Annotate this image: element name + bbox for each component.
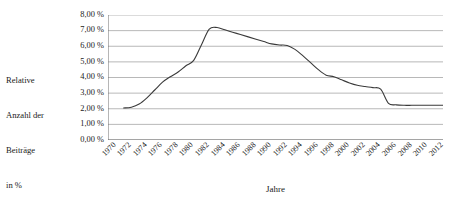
x-tick-label-2006: 2006 [381, 141, 398, 158]
x-tick-label-1976: 1976 [147, 141, 164, 158]
y-tick-label: 1,00 % [62, 120, 104, 128]
gridlines [108, 15, 443, 140]
x-tick-label-2012: 2012 [427, 141, 444, 158]
x-tick-label-1986: 1986 [225, 141, 242, 158]
x-tick-label-2004: 2004 [365, 141, 382, 158]
x-tick-label-2010: 2010 [412, 141, 429, 158]
x-tick-label-1974: 1974 [131, 141, 148, 158]
x-tick-label-1982: 1982 [194, 141, 211, 158]
y-tick-label: 2,00 % [62, 105, 104, 113]
y-tick-label: 6,00 % [62, 42, 104, 50]
x-tick-label-1992: 1992 [272, 141, 289, 158]
x-axis-title: Jahre [108, 185, 443, 194]
x-tick-label-2002: 2002 [349, 141, 366, 158]
x-tick-label-1996: 1996 [303, 141, 320, 158]
y-axis-tick-labels: 8,00 %7,00 %6,00 %5,00 %4,00 %3,00 %2,00… [60, 15, 104, 140]
y-tick-label: 4,00 % [62, 73, 104, 81]
y-axis-title-line-3: Beiträge [6, 145, 92, 157]
y-tick-label: 8,00 % [62, 11, 104, 19]
x-tick-label-1990: 1990 [256, 141, 273, 158]
x-tick-label-1980: 1980 [178, 141, 195, 158]
y-tick-label: 3,00 % [62, 89, 104, 97]
plot-svg [108, 15, 443, 140]
y-tick-label: 7,00 % [62, 26, 104, 34]
y-tick-label: 0,00 % [62, 136, 104, 144]
data-line-series-1 [124, 27, 443, 108]
y-tick-label: 5,00 % [62, 58, 104, 66]
x-tick-label-1988: 1988 [240, 141, 257, 158]
x-tick-label-2008: 2008 [396, 141, 413, 158]
x-tick-label-1994: 1994 [287, 141, 304, 158]
x-tick-label-1998: 1998 [318, 141, 335, 158]
plot-area [108, 15, 443, 140]
x-tick-label-1978: 1978 [162, 141, 179, 158]
x-axis-tick-labels: 1970197219741976197819801982198419861988… [108, 141, 443, 181]
x-tick-label-2000: 2000 [334, 141, 351, 158]
y-axis-title-line-4: in % [6, 180, 92, 192]
chart-figure: Relative Anzahl der Beiträge in % 8,00 %… [0, 0, 457, 203]
x-tick-label-1972: 1972 [116, 141, 133, 158]
x-tick-label-1984: 1984 [209, 141, 226, 158]
